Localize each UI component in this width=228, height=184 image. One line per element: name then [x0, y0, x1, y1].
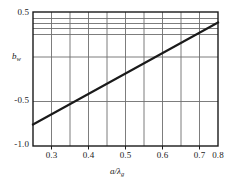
- x-tick-label-3: 0.6: [150, 150, 176, 160]
- x-tick-label-1: 0.4: [76, 150, 102, 160]
- y-axis-title: bw: [12, 51, 21, 61]
- figure-container: 0.5 -0.5 -1.0 0.3 0.4 0.5 0.6 0.7 0.8 bw…: [0, 0, 228, 184]
- y-tick-label-2: -1.0: [3, 139, 29, 149]
- x-tick-label-2: 0.5: [113, 150, 139, 160]
- x-axis-title-sub: g: [121, 170, 124, 177]
- y-axis-title-sub: w: [17, 55, 21, 62]
- x-axis-title: a/λg: [110, 166, 124, 176]
- x-tick-label-0: 0.3: [39, 150, 65, 160]
- x-tick-label-5: 0.8: [205, 150, 228, 160]
- y-tick-label-0: 0.5: [3, 7, 29, 17]
- y-tick-label-1: -0.5: [3, 95, 29, 105]
- y-axis-title-main: b: [12, 51, 17, 61]
- x-axis-title-main: a/λ: [110, 166, 121, 176]
